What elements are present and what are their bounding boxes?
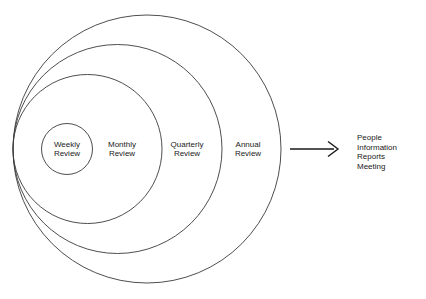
outcome-item-people: People — [357, 133, 397, 143]
ring-circle-monthly — [13, 75, 162, 224]
ring-label-quarterly-line1: Quarterly — [171, 140, 204, 149]
ring-label-monthly: Monthly Review — [108, 140, 136, 159]
ring-label-monthly-line1: Monthly — [108, 140, 136, 149]
ring-label-weekly-line2: Review — [54, 149, 80, 158]
ring-label-annual-line2: Review — [235, 149, 261, 158]
outcome-list: People Information Reports Meeting — [357, 133, 397, 171]
ring-label-quarterly-line2: Review — [171, 149, 204, 158]
ring-label-monthly-line2: Review — [108, 149, 136, 158]
ring-label-weekly-line1: Weekly — [54, 140, 80, 149]
outcome-item-information: Information — [357, 143, 397, 153]
ring-label-quarterly: Quarterly Review — [171, 140, 204, 159]
ring-label-annual: Annual Review — [235, 140, 261, 159]
outcome-item-reports: Reports — [357, 152, 397, 162]
ring-label-weekly: Weekly Review — [54, 140, 80, 159]
outcome-item-meeting: Meeting — [357, 162, 397, 172]
ring-label-annual-line1: Annual — [235, 140, 261, 149]
